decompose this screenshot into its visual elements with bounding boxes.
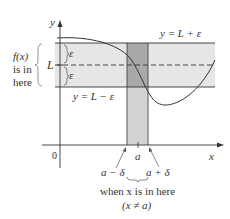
fx-label-line2: is in — [13, 64, 32, 75]
a-minus-delta-label: a − δ — [101, 167, 125, 178]
y-axis-arrow-icon — [58, 20, 63, 27]
origin-label: 0 — [52, 151, 57, 161]
epsilon-lower-label: ε — [69, 70, 73, 81]
upper-line-label: y = L + ε — [160, 28, 201, 39]
arrow-a-plus-delta — [150, 149, 159, 167]
a-plus-delta-label: a + δ — [146, 167, 170, 178]
arrowhead-icon — [149, 147, 153, 152]
arrowhead-icon — [123, 147, 127, 152]
caption-line2: (x ≠ a) — [122, 200, 151, 211]
fx-label-line1: f(x) — [13, 51, 28, 62]
epsilon-upper-label: ε — [69, 48, 73, 59]
x-axis-arrow-icon — [217, 143, 224, 148]
x-brace — [127, 177, 148, 182]
L-label: L — [47, 59, 54, 71]
fx-label-line3: here — [13, 77, 32, 88]
x-axis-label: x — [209, 151, 214, 162]
lower-line-label: y = L − ε — [73, 91, 114, 102]
a-label: a — [135, 151, 141, 162]
fx-brace — [35, 44, 42, 86]
caption-line1: when x is in here — [100, 186, 175, 197]
y-axis-label: y — [50, 17, 55, 28]
